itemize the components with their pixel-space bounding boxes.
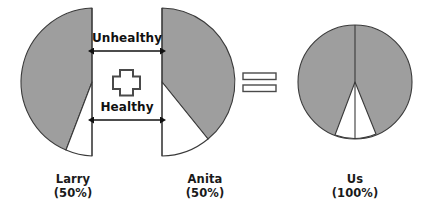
diagram-canvas: Unhealthy Healthy Larry (50%) Anita (50%…: [0, 0, 429, 213]
caption-us: Us (100%): [300, 172, 410, 200]
unhealthy-label: Unhealthy: [91, 31, 163, 45]
equals-operator-icon: [243, 73, 276, 92]
caption-larry: Larry (50%): [18, 172, 128, 200]
caption-anita-percent: (50%): [150, 186, 260, 200]
caption-larry-percent: (50%): [18, 186, 128, 200]
chart-anita: [162, 8, 235, 156]
caption-us-percent: (100%): [300, 186, 410, 200]
caption-anita: Anita (50%): [150, 172, 260, 200]
caption-larry-name: Larry: [56, 172, 90, 186]
chart-larry: [21, 8, 92, 156]
chart-us: [298, 25, 412, 139]
plus-operator-icon: [113, 70, 140, 96]
caption-us-name: Us: [347, 172, 363, 186]
caption-anita-name: Anita: [188, 172, 223, 186]
healthy-label: Healthy: [91, 100, 163, 114]
